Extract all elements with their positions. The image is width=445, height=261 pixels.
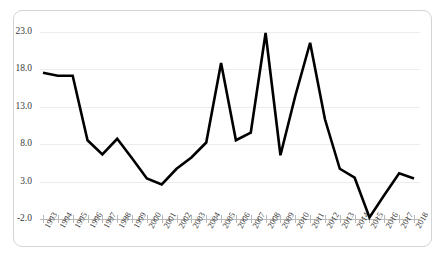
series-1-polyline (43, 33, 414, 218)
chart-plot-area: -2.03.08.013.018.023.0 19931994199519961… (0, 0, 445, 261)
chart-line-series (0, 0, 445, 261)
